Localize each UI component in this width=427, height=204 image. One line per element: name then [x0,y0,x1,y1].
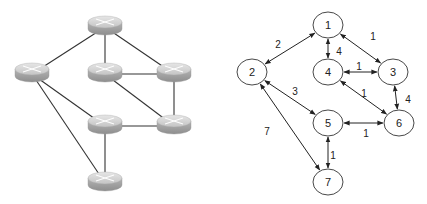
graph-node-5: 5 [313,110,343,136]
edge-weight-1-4: 4 [336,46,342,57]
graph-nodes: 1243567 [237,12,414,195]
edge-3-6 [395,86,398,109]
graph-node-3: 3 [378,59,408,85]
node-label: 4 [325,66,331,78]
node-label: 2 [249,66,255,78]
diagram-canvas: 1243567 2411143171 [0,0,427,204]
graph-node-6: 6 [384,110,414,136]
node-label: 1 [325,19,331,31]
graph-node-1: 1 [313,12,343,38]
node-label: 5 [325,117,331,129]
graph-node-4: 4 [313,59,343,85]
edge-weight-2-5: 3 [292,86,298,97]
edge-weight-1-3: 1 [370,31,376,42]
edge-1-2 [265,33,315,64]
edge-weight-5-7: 1 [330,150,336,161]
edge-weight-2-7: 7 [264,126,270,137]
node-label: 7 [325,176,331,188]
graph-node-2: 2 [237,59,267,85]
node-label: 6 [396,117,402,129]
graph-node-7: 7 [313,169,343,195]
edge-2-5 [265,81,315,115]
edge-weight-4-6: 1 [361,88,367,99]
weighted-graph-diagram: 1243567 2411143171 [0,0,427,204]
edge-weight-3-6: 4 [405,94,411,105]
edge-weight-4-3: 1 [356,61,362,72]
edge-weight-5-6: 1 [363,128,369,139]
graph-edges [260,33,397,170]
edge-weight-1-2: 2 [275,39,281,50]
node-label: 3 [390,66,396,78]
